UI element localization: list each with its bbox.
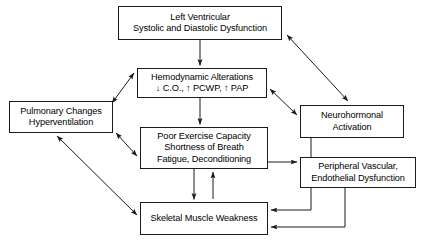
edge-pulmonary-exercise bbox=[116, 133, 137, 156]
node-hemodynamic-alterations[interactable]: Hemodynamic Alterations ↓ C.O., ↑ PCWP, … bbox=[137, 68, 267, 98]
edge-pulmonary-skeletal bbox=[57, 136, 137, 215]
node-line: Hyperventilation bbox=[29, 117, 93, 128]
edge-hemodynamic-pulmonary bbox=[112, 73, 134, 103]
node-poor-exercise-capacity[interactable]: Poor Exercise Capacity Shortness of Brea… bbox=[140, 127, 268, 169]
node-line: Shortness of Breath bbox=[164, 142, 243, 153]
node-line: Hemodynamic Alterations bbox=[151, 72, 253, 83]
node-skeletal-muscle-weakness[interactable]: Skeletal Muscle Weakness bbox=[140, 202, 268, 235]
node-line: Neurohormonal bbox=[321, 110, 383, 121]
node-line: Endothelial Dysfunction bbox=[311, 173, 405, 184]
node-line: Fatigue, Deconditioning bbox=[157, 154, 251, 165]
node-line: Left Ventricular bbox=[170, 12, 230, 23]
node-line: Peripheral Vascular, bbox=[318, 161, 398, 172]
node-line: Activation bbox=[333, 122, 372, 133]
node-peripheral-vascular-dysfunction[interactable]: Peripheral Vascular, Endothelial Dysfunc… bbox=[300, 157, 416, 188]
node-left-ventricular-dysfunction[interactable]: Left Ventricular Systolic and Diastolic … bbox=[118, 6, 282, 40]
edge-hemodynamic-neurohormonal bbox=[270, 89, 297, 115]
node-line: Skeletal Muscle Weakness bbox=[150, 213, 257, 224]
edge-lv-neurohormonal bbox=[287, 35, 348, 101]
node-line: Poor Exercise Capacity bbox=[157, 131, 250, 142]
flowchart-diagram: Left Ventricular Systolic and Diastolic … bbox=[0, 0, 424, 248]
node-line: ↓ C.O., ↑ PCWP, ↑ PAP bbox=[156, 83, 249, 94]
node-neurohormonal-activation[interactable]: Neurohormonal Activation bbox=[300, 105, 404, 138]
node-line: Pulmonary Changes bbox=[20, 106, 102, 117]
node-pulmonary-changes[interactable]: Pulmonary Changes Hyperventilation bbox=[9, 101, 113, 133]
node-line: Systolic and Diastolic Dysfunction bbox=[133, 23, 267, 34]
edge-peripheral-to-skeletal bbox=[271, 188, 345, 227]
